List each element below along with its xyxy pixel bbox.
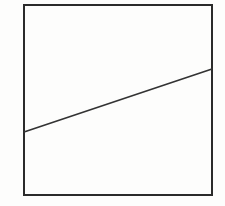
figure-svg [0, 0, 225, 206]
figure-canvas [0, 0, 225, 206]
